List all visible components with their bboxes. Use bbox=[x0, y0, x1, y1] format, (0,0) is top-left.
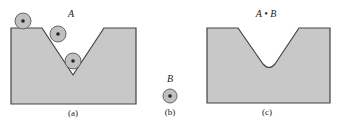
structuring-element-b bbox=[163, 89, 177, 103]
caption-c: (c) bbox=[262, 107, 272, 117]
structuring-element-disk-2 bbox=[50, 26, 66, 42]
set-b-label: B bbox=[167, 73, 173, 84]
caption-a: (a) bbox=[68, 108, 78, 118]
structuring-element-disk-1 bbox=[15, 13, 31, 29]
structuring-element-disk-3 bbox=[65, 53, 81, 69]
closing-diagram: A (a) B (b) A • B (c) bbox=[0, 0, 338, 128]
caption-b: (b) bbox=[165, 107, 176, 117]
panel-b: B (b) bbox=[163, 73, 177, 117]
set-a-label: A bbox=[67, 8, 75, 19]
panel-c: A • B (c) bbox=[207, 8, 330, 117]
closing-label: A • B bbox=[255, 8, 277, 19]
panel-a: A (a) bbox=[11, 8, 136, 118]
closing-result-shape bbox=[207, 28, 330, 103]
